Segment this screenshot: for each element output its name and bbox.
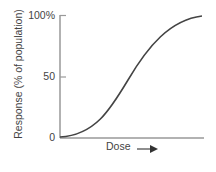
x-axis-label: Dose: [106, 140, 131, 152]
arrow-right-icon: [150, 145, 158, 153]
tick-label-100: 100%: [15, 9, 55, 21]
tick-label-0: 0: [15, 131, 55, 143]
dose-response-curve: [60, 16, 202, 137]
tick-label-50: 50: [15, 70, 55, 82]
